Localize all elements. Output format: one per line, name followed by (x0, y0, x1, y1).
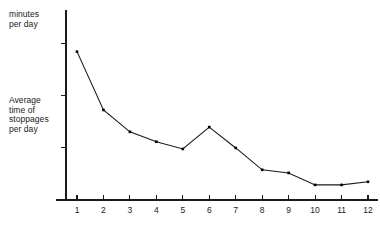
x-axis-tick-label: 10 (310, 205, 320, 215)
data-point-marker (208, 126, 211, 129)
data-point-marker (314, 184, 317, 187)
data-point-marker (340, 184, 343, 187)
data-point-marker (234, 147, 237, 150)
data-point-marker (367, 180, 370, 183)
data-point-marker (182, 148, 185, 151)
x-axis-tick-label: 5 (180, 205, 185, 215)
x-axis-tick-label: 4 (154, 205, 159, 215)
x-axis-tick-labels: 123456789101112 (75, 205, 373, 215)
chart-container: minutes per day Average time of stoppage… (0, 0, 380, 237)
data-point-marker (76, 50, 79, 53)
x-axis-tick-label: 9 (286, 205, 291, 215)
x-axis-tick-label: 2 (101, 205, 106, 215)
x-axis-tick-label: 6 (207, 205, 212, 215)
chart-axes (56, 10, 378, 200)
data-point-marker (287, 172, 290, 175)
data-series-line (77, 52, 368, 185)
data-point-markers (76, 50, 370, 186)
x-axis-ticks (77, 195, 368, 200)
data-point-marker (155, 140, 158, 143)
x-axis-tick-label: 8 (260, 205, 265, 215)
line-chart-plot: 123456789101112 (0, 0, 380, 237)
x-axis-tick-label: 12 (363, 205, 373, 215)
x-axis-tick-label: 7 (233, 205, 238, 215)
data-point-marker (129, 131, 132, 134)
data-point-marker (102, 109, 105, 112)
x-axis-tick-label: 3 (128, 205, 133, 215)
data-point-marker (261, 169, 264, 172)
x-axis-tick-label: 11 (337, 205, 346, 215)
y-axis-ticks (61, 44, 66, 148)
x-axis-tick-label: 1 (75, 205, 80, 215)
